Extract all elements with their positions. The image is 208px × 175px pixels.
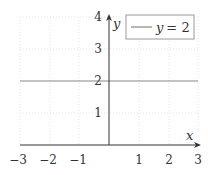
x-tick: 2 — [165, 153, 173, 167]
legend-label: y= 2 — [155, 20, 190, 35]
x-tick: −3 — [9, 153, 27, 167]
y-tick: 3 — [94, 42, 102, 56]
legend: y= 2 — [126, 15, 194, 39]
y-tick: 1 — [94, 106, 102, 120]
legend-eq: = 2 — [166, 20, 189, 35]
x-tick: 1 — [135, 153, 143, 167]
y-axis-label: y — [112, 16, 121, 31]
y-tick-labels: 1 2 3 4 — [94, 10, 102, 120]
y-tick: 4 — [94, 10, 102, 24]
x-axis-label: x — [186, 128, 194, 143]
legend-var: y — [155, 20, 164, 35]
x-tick: 3 — [194, 153, 202, 167]
chart-canvas: −3 −2 −1 1 2 3 1 2 3 4 y x y= 2 — [0, 0, 208, 175]
y-tick: 2 — [94, 74, 102, 88]
x-tick: −2 — [39, 153, 57, 167]
x-tick: −1 — [69, 153, 87, 167]
x-tick-labels: −3 −2 −1 1 2 3 — [9, 153, 202, 167]
